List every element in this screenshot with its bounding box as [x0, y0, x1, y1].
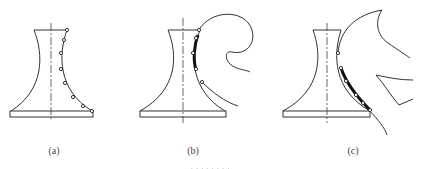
panel-c-drawing — [283, 10, 413, 135]
upper-strip — [338, 10, 410, 58]
lower-strip — [370, 111, 387, 135]
trailing-strip — [202, 82, 238, 106]
figure-caption: · · · · · · · · — [190, 163, 230, 169]
panel-b-label: (b) — [187, 145, 199, 156]
middle-strip — [376, 75, 413, 105]
figure-canvas — [0, 0, 421, 169]
panel-b-drawing — [140, 14, 253, 123]
panel-a-label: (a) — [48, 145, 59, 156]
panel-c-label: (c) — [347, 145, 358, 156]
panel-a-drawing — [10, 23, 94, 121]
contact-points — [59, 28, 93, 112]
curl-strip — [199, 14, 253, 72]
